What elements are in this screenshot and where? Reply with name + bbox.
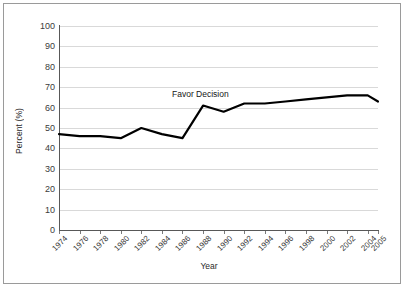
chart-figure: 100 90 80 70 60 50 40 30 20 10 0 Percent…	[0, 0, 404, 287]
series-line-layer	[0, 0, 404, 287]
series-line-favor-decision	[59, 95, 378, 138]
